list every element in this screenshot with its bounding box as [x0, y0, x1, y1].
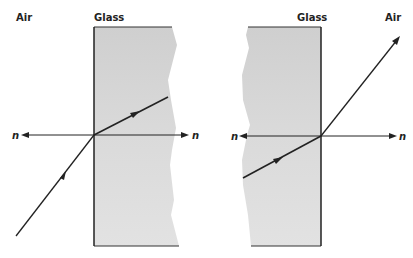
- left-air-label: Air: [16, 12, 32, 23]
- left-glass-block: [94, 27, 179, 246]
- left-normal-arrow-right-icon: [181, 132, 189, 138]
- right-normal-label-left: n: [231, 131, 238, 142]
- left-normal-label-right: n: [192, 130, 199, 141]
- left-glass-label: Glass: [94, 12, 124, 23]
- left-panel: Air Glass n n: [12, 12, 199, 246]
- right-air-label: Air: [385, 12, 401, 23]
- right-normal-arrow-right-icon: [389, 133, 397, 139]
- right-normal-label-right: n: [399, 131, 406, 142]
- right-refracted-ray: [321, 40, 397, 136]
- left-incident-ray: [16, 135, 94, 236]
- refraction-diagram: Air Glass n n Glass Air n n: [0, 0, 413, 258]
- right-normal-arrow-left-icon: [239, 133, 247, 139]
- left-normal-arrow-left-icon: [21, 132, 29, 138]
- left-normal-label-left: n: [12, 130, 19, 141]
- right-refracted-arrow-icon: [392, 36, 400, 45]
- right-panel: Glass Air n n: [231, 12, 406, 246]
- right-glass-label: Glass: [297, 12, 327, 23]
